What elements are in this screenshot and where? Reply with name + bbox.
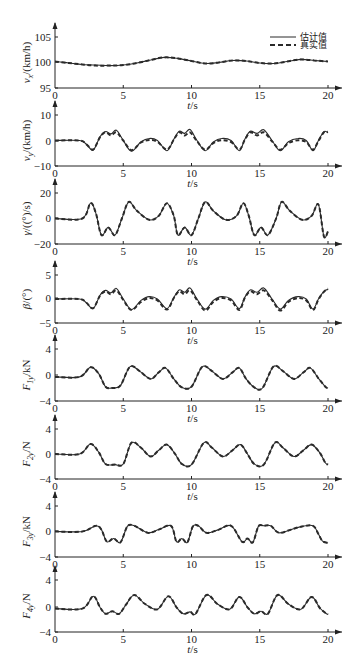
y-axis-arrow-icon <box>53 491 58 498</box>
y-tick-label: 100 <box>35 56 52 68</box>
y-tick-label: −10 <box>34 160 52 172</box>
series-true-line <box>55 595 328 615</box>
y-tick-label: 0 <box>46 525 52 537</box>
x-tick-label: 5 <box>121 245 127 257</box>
x-tick-label: 15 <box>254 402 266 414</box>
series-true-line <box>55 288 328 310</box>
figure: 1051009505101520t/svx/(km/h)100−10051015… <box>0 0 361 669</box>
x-axis-label: t/s <box>187 643 197 655</box>
y-axis-label: F4y/N <box>20 593 35 619</box>
y-tick-label: 20 <box>40 187 52 199</box>
x-tick-label: 15 <box>254 324 266 336</box>
panel-2: 100−1005101520t/svy/(km/h) <box>20 100 342 189</box>
x-axis-arrow-icon <box>335 86 342 91</box>
legend-label-true: 真实值 <box>300 39 327 50</box>
x-tick-label: 15 <box>254 558 266 570</box>
x-tick-label: 15 <box>254 167 266 179</box>
y-tick-label: 4 <box>46 343 52 355</box>
y-tick-label: −5 <box>39 317 51 329</box>
panel-8: 40−405101520t/sF4y/N <box>20 565 342 655</box>
panel-1: 1051009505101520t/svx/(km/h) <box>20 22 342 111</box>
y-axis-arrow-icon <box>53 22 58 29</box>
x-tick-label: 20 <box>323 480 335 492</box>
x-tick-label: 5 <box>121 402 127 414</box>
panel-7: 40−405101520F3y/kN <box>20 491 342 570</box>
y-axis-label: F3y/kN <box>20 516 35 548</box>
y-tick-label: 105 <box>35 31 52 43</box>
panel-6: 40−405101520t/sF2y/N <box>20 414 342 502</box>
series-true-line <box>55 442 328 466</box>
series-true-line <box>55 366 328 390</box>
y-axis-label: vy/(km/h) <box>20 119 35 161</box>
y-tick-label: −4 <box>39 473 51 485</box>
panel-5: 40−405101520t/sF1y/kN <box>20 334 342 424</box>
y-tick-label: 5 <box>46 269 52 281</box>
x-tick-label: 0 <box>52 245 58 257</box>
x-tick-label: 20 <box>323 402 335 414</box>
x-tick-label: 0 <box>52 324 58 336</box>
y-tick-label: 4 <box>46 574 52 586</box>
x-tick-label: 5 <box>121 167 127 179</box>
x-tick-label: 0 <box>52 480 58 492</box>
x-tick-label: 20 <box>323 633 335 645</box>
y-tick-label: −4 <box>39 626 51 638</box>
panel-3: 200−2005101520t/sγ/((°)/s) <box>20 178 342 267</box>
panels: 1051009505101520t/svx/(km/h)100−10051015… <box>20 22 342 655</box>
y-tick-label: 10 <box>40 109 52 121</box>
x-tick-label: 20 <box>323 167 335 179</box>
x-tick-label: 5 <box>121 324 127 336</box>
y-tick-label: 0 <box>46 135 52 147</box>
x-axis-arrow-icon <box>335 399 342 404</box>
y-tick-label: 0 <box>46 292 52 304</box>
x-tick-label: 15 <box>254 633 266 645</box>
series-true-line <box>55 202 328 238</box>
x-axis-arrow-icon <box>335 555 342 560</box>
y-tick-label: 0 <box>46 601 52 613</box>
y-tick-label: 0 <box>46 212 52 224</box>
x-tick-label: 0 <box>52 633 58 645</box>
x-axis-arrow-icon <box>335 242 342 247</box>
y-tick-label: 4 <box>46 500 52 512</box>
series-estimate-line <box>55 442 328 466</box>
x-axis-label: t/s <box>187 99 197 111</box>
y-axis-label: β/(°) <box>20 289 33 311</box>
series-true-line <box>55 132 328 151</box>
x-tick-label: 20 <box>323 324 335 336</box>
y-axis-arrow-icon <box>53 178 58 185</box>
y-axis-arrow-icon <box>53 100 58 107</box>
y-tick-label: 0 <box>46 448 52 460</box>
x-tick-label: 20 <box>323 558 335 570</box>
x-tick-label: 5 <box>121 558 127 570</box>
y-axis-label: F1y/kN <box>20 360 35 392</box>
x-tick-label: 15 <box>254 245 266 257</box>
y-tick-label: −4 <box>39 395 51 407</box>
x-tick-label: 20 <box>323 245 335 257</box>
x-tick-label: 10 <box>186 558 198 570</box>
y-axis-label: γ/((°)/s) <box>20 201 33 235</box>
y-tick-label: −4 <box>39 551 51 563</box>
x-axis-arrow-icon <box>335 164 342 169</box>
x-tick-label: 15 <box>254 89 266 101</box>
x-tick-label: 15 <box>254 480 266 492</box>
x-axis-arrow-icon <box>335 321 342 326</box>
series-true-line <box>55 525 328 543</box>
y-axis-arrow-icon <box>53 414 58 421</box>
y-axis-label: vx/(km/h) <box>20 41 35 83</box>
y-axis-label: F2y/N <box>20 441 35 467</box>
x-axis-label: t/s <box>187 177 197 189</box>
y-axis-arrow-icon <box>53 260 58 267</box>
x-axis-label: t/s <box>187 412 197 424</box>
x-axis-label: t/s <box>187 490 197 502</box>
y-tick-label: 95 <box>40 82 52 94</box>
x-axis-label: t/s <box>187 255 197 267</box>
y-tick-label: −20 <box>34 238 52 250</box>
legend: 估计值 真实值 <box>270 31 327 50</box>
x-tick-label: 0 <box>52 402 58 414</box>
series-true-line <box>55 57 328 65</box>
y-tick-label: 0 <box>46 369 52 381</box>
x-tick-label: 20 <box>323 89 335 101</box>
x-axis-arrow-icon <box>335 477 342 482</box>
panel-4: 50−505101520t/sβ/(°) <box>20 260 342 346</box>
x-tick-label: 0 <box>52 167 58 179</box>
x-axis-label: t/s <box>187 334 197 346</box>
